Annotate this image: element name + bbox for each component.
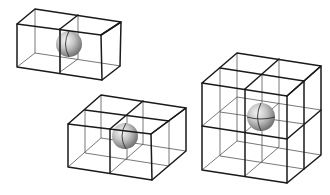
- figure-four-cubes: [68, 95, 186, 180]
- diagram-canvas: [0, 0, 330, 195]
- figure-eight-cubes: [202, 53, 321, 183]
- figure-two-cubes: [17, 9, 121, 80]
- sphere-icon: [247, 103, 275, 131]
- sphere-icon: [112, 123, 138, 149]
